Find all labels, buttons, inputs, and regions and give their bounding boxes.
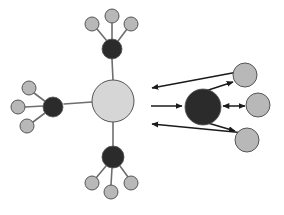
node-circle-bottom-hub — [102, 146, 124, 168]
node-circle-top-sat-2 — [105, 9, 119, 23]
node-bottom-sat-1[interactable] — [85, 176, 99, 190]
edge-bottom-hub-to-bottom-sat-2 — [111, 168, 112, 185]
node-right-hub[interactable] — [185, 89, 221, 125]
node-circle-bottom-sat-2 — [104, 185, 118, 199]
node-top-hub[interactable] — [102, 39, 122, 59]
node-circle-left-hub — [43, 97, 63, 117]
node-left-sat-2[interactable] — [11, 100, 25, 114]
node-circle-left-sat-3 — [20, 119, 34, 133]
edge-left-sat-2-to-left-hub — [25, 106, 43, 107]
node-circle-top-hub — [102, 39, 122, 59]
diagram-canvas — [0, 0, 284, 215]
node-left-sat-1[interactable] — [22, 81, 36, 95]
node-top-sat-2[interactable] — [105, 9, 119, 23]
node-circle-bottom-sat-3 — [124, 176, 138, 190]
diagram-background — [0, 0, 284, 215]
node-circle-right-hub — [185, 89, 221, 125]
node-circle-top-sat-3 — [124, 17, 138, 31]
node-left-sat-3[interactable] — [20, 119, 34, 133]
node-circle-right-sat-1 — [233, 63, 257, 87]
node-right-sat-1[interactable] — [233, 63, 257, 87]
node-circle-left-sat-2 — [11, 100, 25, 114]
node-bottom-hub[interactable] — [102, 146, 124, 168]
node-center-hub[interactable] — [92, 80, 134, 122]
node-bottom-sat-2[interactable] — [104, 185, 118, 199]
edge-top-hub-to-center-hub — [112, 59, 113, 80]
node-circle-center-hub — [92, 80, 134, 122]
node-circle-bottom-sat-1 — [85, 176, 99, 190]
node-top-sat-3[interactable] — [124, 17, 138, 31]
node-circle-right-sat-2 — [246, 93, 270, 117]
node-circle-right-sat-3 — [235, 128, 259, 152]
node-right-sat-3[interactable] — [235, 128, 259, 152]
network-cluster-diagram — [0, 0, 284, 215]
node-bottom-sat-3[interactable] — [124, 176, 138, 190]
node-right-sat-2[interactable] — [246, 93, 270, 117]
node-circle-left-sat-1 — [22, 81, 36, 95]
node-top-sat-1[interactable] — [85, 17, 99, 31]
node-left-hub[interactable] — [43, 97, 63, 117]
node-circle-top-sat-1 — [85, 17, 99, 31]
